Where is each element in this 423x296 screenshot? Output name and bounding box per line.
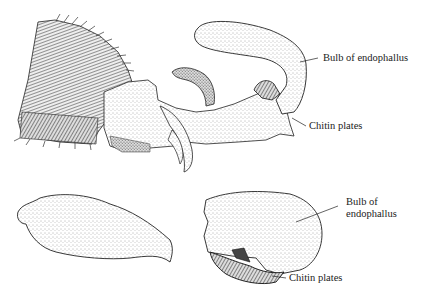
bottom-left-drawing — [17, 195, 172, 262]
label-bulb-top: Bulb of endophallus — [323, 52, 408, 64]
serrated-arm — [172, 68, 215, 106]
label-bulb-line1: Bulb of — [346, 196, 397, 208]
label-bulb-line2: endophallus — [346, 208, 397, 220]
illustration — [0, 0, 423, 296]
label-chitin-top: Chitin plates — [309, 120, 362, 132]
endophallus-outline — [17, 195, 172, 262]
top-panel-drawing — [14, 14, 318, 172]
label-bulb-bottom: Bulb of endophallus — [346, 196, 397, 220]
label-chitin-bottom: Chitin plates — [289, 272, 342, 284]
bottom-right-drawing — [204, 192, 338, 284]
